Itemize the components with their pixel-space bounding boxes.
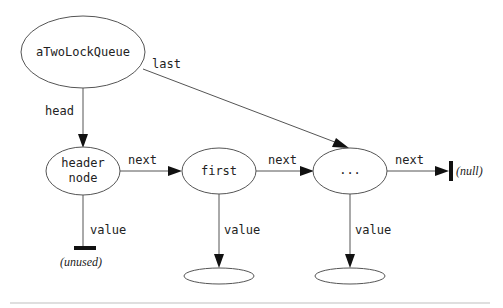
edge-label-header-next: next — [128, 153, 157, 167]
node-ellipsis-value — [315, 268, 385, 284]
arrowhead-icon — [332, 138, 349, 148]
node-queue-label: aTwoLockQueue — [36, 45, 130, 59]
node-first: first — [182, 148, 256, 194]
node-first-label: first — [201, 164, 237, 178]
edge-header-next: next — [120, 153, 182, 176]
edge-label-first-next: next — [268, 153, 297, 167]
edge-label-ellipsis-next: next — [395, 153, 424, 167]
edge-ellipsis-value: value — [345, 194, 391, 268]
edge-header-value: value (unused) — [60, 195, 126, 269]
arrowhead-icon — [300, 166, 314, 176]
edge-head: head — [45, 88, 88, 148]
node-header-label-line2: node — [69, 171, 98, 185]
unused-label: (unused) — [60, 255, 102, 269]
node-first-value — [184, 268, 254, 284]
node-header: header node — [46, 147, 120, 195]
null-label: (null) — [456, 164, 483, 178]
unused-terminator-icon — [74, 246, 96, 250]
node-ellipsis-label: ... — [339, 163, 361, 177]
arrowhead-icon — [168, 166, 182, 176]
two-lock-queue-diagram: head last next next next (null) value (u… — [0, 0, 503, 308]
edge-ellipsis-next: next (null) — [387, 153, 483, 181]
edge-label-head: head — [45, 104, 74, 118]
edge-first-value: value — [214, 194, 260, 268]
edge-last: last — [143, 57, 349, 148]
arrowhead-icon — [345, 254, 355, 268]
arrowhead-icon — [435, 166, 449, 176]
arrowhead-icon — [78, 134, 88, 148]
node-header-label-line1: header — [61, 156, 104, 170]
node-queue: aTwoLockQueue — [21, 16, 145, 88]
edge-label-first-value: value — [224, 223, 260, 237]
edge-label-last: last — [152, 57, 181, 71]
edge-label-header-value: value — [90, 223, 126, 237]
arrowhead-icon — [214, 254, 224, 268]
edge-first-next: next — [256, 153, 314, 176]
node-ellipsis: ... — [313, 148, 387, 194]
edge-label-ellipsis-value: value — [355, 223, 391, 237]
null-terminator-icon — [449, 161, 453, 181]
